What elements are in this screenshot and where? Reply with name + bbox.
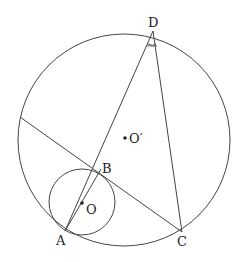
tangent-line — [20, 117, 182, 232]
label-Oprime: O′ — [129, 131, 143, 146]
point-Oprime-dot — [123, 136, 127, 140]
label-B: B — [102, 161, 112, 176]
segment-AB — [65, 169, 101, 231]
geometry-diagram: D A B C O O′ — [0, 0, 245, 262]
big-circle — [18, 34, 230, 246]
point-O-dot — [80, 201, 84, 205]
segment-DC — [153, 31, 182, 232]
label-A: A — [55, 233, 66, 248]
label-O: O — [86, 202, 97, 217]
label-C: C — [177, 234, 187, 249]
label-D: D — [148, 15, 158, 30]
